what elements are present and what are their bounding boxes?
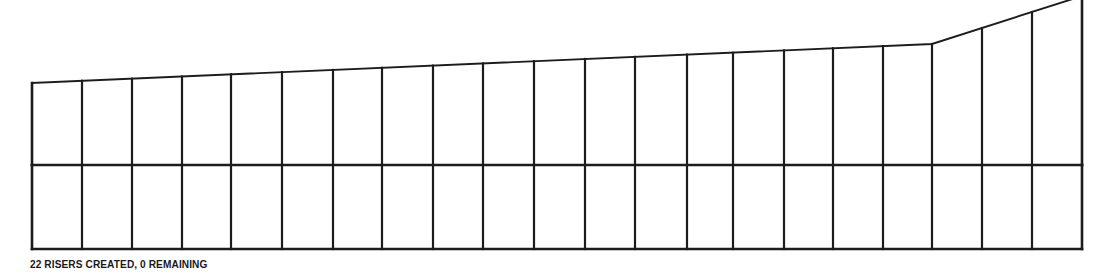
status-bar: 22 RISERS CREATED, 0 REMAINING [30, 258, 207, 270]
lower-riser-lines [32, 165, 1082, 249]
top-profile-line [32, 0, 1082, 83]
riser-elevation-drawing[interactable] [0, 0, 1103, 280]
upper-riser-lines [32, 0, 1082, 165]
